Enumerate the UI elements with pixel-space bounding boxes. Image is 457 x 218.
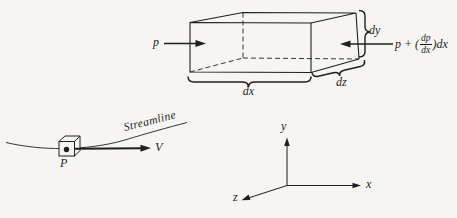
y-axis-arrowhead — [284, 138, 290, 147]
velocity-arrow — [75, 145, 152, 152]
pressure-gradient-fraction: dpdx — [420, 33, 432, 55]
z-axis — [249, 186, 287, 198]
pressure-right-suffix: )dx — [433, 38, 448, 51]
pressure-arrow-left — [164, 40, 206, 47]
dx-dimension-label: dx — [240, 85, 257, 98]
pressure-arrow-left-head — [196, 40, 207, 47]
dy-dimension-label: dy — [369, 24, 380, 37]
z-axis-label: z — [233, 191, 238, 204]
box-hidden-edges — [190, 13, 359, 73]
pressure-arrow-right-head — [340, 41, 351, 48]
pressure-gradient-denominator: dx — [420, 45, 432, 56]
point-marker-dot — [64, 147, 69, 152]
dz-dimension-label: dz — [336, 76, 347, 89]
velocity-arrow-head — [141, 145, 152, 152]
coordinate-axes — [242, 138, 362, 201]
point-cube — [59, 136, 80, 156]
textbook-figure: p p + (dpdx)dx dy dx dz Streamline V P y… — [0, 0, 457, 218]
point-p-label: P — [60, 157, 67, 170]
fluid-element-box — [190, 13, 359, 73]
x-axis-arrowhead — [353, 183, 362, 189]
box-top-face — [190, 13, 356, 24]
figure-linework — [0, 0, 457, 218]
x-axis-label: x — [366, 178, 371, 191]
box-front-face — [190, 23, 311, 73]
y-axis-label: y — [281, 120, 286, 133]
velocity-label: V — [155, 141, 163, 154]
z-axis-arrowhead — [242, 195, 251, 201]
pressure-right-label: p + (dpdx)dx — [395, 33, 448, 55]
pressure-left-label: p — [153, 36, 159, 49]
pressure-right-prefix: p + ( — [395, 38, 419, 51]
pressure-gradient-numerator: dp — [420, 33, 432, 45]
pressure-arrow-right — [340, 41, 393, 48]
